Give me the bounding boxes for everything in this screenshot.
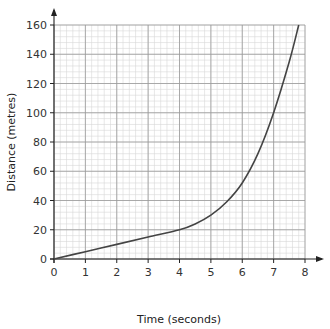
y-tick-label: 40	[33, 195, 47, 208]
y-tick-label: 20	[33, 224, 47, 237]
x-tick-label: 1	[82, 266, 89, 279]
y-tick-label: 160	[26, 19, 47, 32]
x-tick-label: 3	[145, 266, 152, 279]
y-tick-label: 0	[40, 253, 47, 266]
y-tick-label: 80	[33, 136, 47, 149]
x-tick-label: 4	[176, 266, 183, 279]
x-tick-label: 5	[207, 266, 214, 279]
y-tick-label: 100	[26, 107, 47, 120]
distance-time-chart: 012345678020406080100120140160 Time (sec…	[0, 0, 330, 329]
y-tick-label: 140	[26, 48, 47, 61]
x-tick-label: 6	[239, 266, 246, 279]
x-tick-label: 7	[270, 266, 277, 279]
x-tick-label: 0	[51, 266, 58, 279]
x-axis-title: Time (seconds)	[136, 313, 221, 326]
x-tick-label: 8	[302, 266, 309, 279]
x-tick-label: 2	[113, 266, 120, 279]
y-tick-label: 60	[33, 165, 47, 178]
axes	[50, 8, 324, 263]
y-tick-label: 120	[26, 78, 47, 91]
y-axis-title: Distance (metres)	[5, 93, 18, 192]
